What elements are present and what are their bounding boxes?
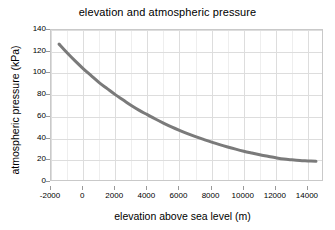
plot-area — [50, 29, 323, 181]
x-tick-mark — [211, 186, 212, 190]
y-tick-label: 0 — [4, 177, 46, 185]
y-tick-label: 60 — [4, 112, 46, 120]
x-tick-label: 14000 — [277, 192, 335, 200]
y-tick-label: 40 — [4, 134, 46, 142]
y-tick-label: 80 — [4, 90, 46, 98]
x-axis-ticks: -200002000400060008000100001200014000 — [50, 186, 323, 198]
x-tick-mark — [275, 186, 276, 190]
x-tick-mark — [146, 186, 147, 190]
y-tick-label: 120 — [4, 47, 46, 55]
y-tick-label: 140 — [4, 25, 46, 33]
x-tick-mark — [178, 186, 179, 190]
pressure-curve-path — [59, 44, 316, 161]
x-tick-mark — [243, 186, 244, 190]
y-axis-ticks: 020406080100120140 — [0, 29, 46, 181]
x-tick-mark — [50, 186, 51, 190]
pressure-curve — [51, 30, 323, 181]
x-tick-mark — [114, 186, 115, 190]
chart-container: elevation and atmospheric pressure atmos… — [0, 0, 335, 230]
chart-title: elevation and atmospheric pressure — [0, 6, 335, 18]
x-tick-mark — [82, 186, 83, 190]
y-tick-label: 100 — [4, 68, 46, 76]
y-tick-mark — [46, 181, 50, 182]
x-axis-label: elevation above sea level (m) — [40, 210, 325, 222]
y-tick-label: 20 — [4, 155, 46, 163]
x-tick-mark — [307, 186, 308, 190]
